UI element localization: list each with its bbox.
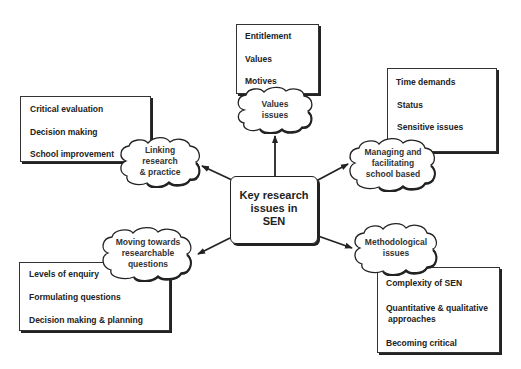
methodological-cloud-line: issues — [350, 248, 442, 259]
managing-cloud-line: facilitating — [345, 158, 441, 169]
moving-cloud-line: researchable — [98, 248, 198, 259]
managing-cloud-line: Managing and — [345, 147, 441, 158]
linking-cloud-line: research — [116, 156, 204, 167]
values-cloud: Values issues — [234, 86, 316, 134]
managing-cloud: Managing and facilitating school based — [345, 137, 441, 192]
managing-item: Sensitive issues — [397, 122, 463, 132]
central-topic-line: SEN — [231, 215, 317, 228]
arrow-to-linking — [202, 166, 232, 180]
moving-item: Levels of enquiry — [29, 269, 99, 279]
methodological-item: Quantitative & qualitative — [386, 303, 488, 313]
methodological-cloud-line: Methodological — [350, 237, 442, 248]
methodological-item: Becoming critical — [386, 338, 457, 348]
linking-item: Critical evaluation — [30, 104, 103, 114]
values-item: Values — [245, 54, 272, 64]
managing-item: Time demands — [396, 77, 455, 87]
managing-cloud-line: school based — [345, 169, 441, 180]
values-item: Motives — [245, 76, 277, 86]
arrow-to-managing — [318, 164, 348, 180]
central-topic-line: Key research — [231, 189, 317, 202]
values-cloud-line: Values — [234, 99, 316, 110]
values-box: Entitlement Values Motives — [236, 24, 319, 94]
linking-item: Decision making — [30, 127, 98, 137]
arrow-to-methodological — [318, 236, 352, 248]
moving-cloud: Moving towards researchable questions — [98, 226, 198, 282]
managing-item: Status — [397, 100, 423, 110]
linking-cloud-line: Linking — [116, 145, 204, 156]
values-item: Entitlement — [245, 31, 291, 41]
methodological-box: Complexity of SEN Quantitative & qualita… — [377, 267, 500, 353]
linking-cloud-line: & practice — [116, 167, 204, 178]
arrow-to-moving — [198, 238, 230, 254]
moving-cloud-line: questions — [98, 259, 198, 270]
mind-map-diagram: Entitlement Values Motives Time demands … — [0, 0, 521, 369]
values-cloud-line: issues — [234, 110, 316, 121]
methodological-item: approaches — [388, 314, 436, 324]
methodological-item: Complexity of SEN — [386, 278, 462, 288]
moving-item: Formulating questions — [29, 292, 121, 302]
central-topic-line: issues in — [231, 202, 317, 215]
linking-item: School improvement — [30, 149, 114, 159]
central-topic-box: Key research issues in SEN — [230, 176, 318, 244]
methodological-cloud: Methodological issues — [350, 222, 442, 276]
moving-item: Decision making & planning — [29, 315, 143, 325]
moving-cloud-line: Moving towards — [98, 237, 198, 248]
linking-cloud: Linking research & practice — [116, 136, 204, 188]
